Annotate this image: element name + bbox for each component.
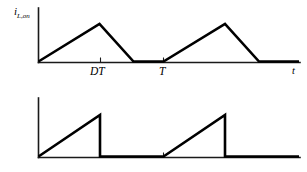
tick-label-dt-top: DT [90, 66, 105, 78]
inductor-current-plot [0, 0, 307, 86]
y-axis-label-inductor: iL,on [14, 6, 30, 20]
x-axis-label-top: t [292, 66, 295, 77]
switch-current-waveform [39, 115, 300, 157]
inductor-current-waveform [39, 24, 300, 62]
switch-current-plot [0, 86, 307, 172]
panel-switch-current: is DT T t [0, 86, 307, 172]
panel-inductor-current: iL,on DT T t [0, 0, 307, 86]
tick-label-t-top: T [159, 66, 165, 78]
waveform-figure: iL,on DT T t is DT T t [0, 0, 307, 172]
y-axis-label-subscript: L,on [17, 12, 30, 20]
